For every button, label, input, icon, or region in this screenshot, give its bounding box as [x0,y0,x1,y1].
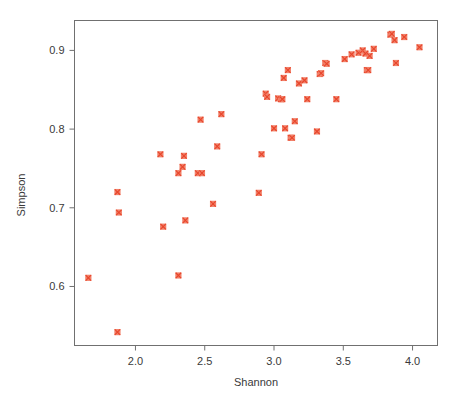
x-tick-label: 2.5 [197,355,212,367]
scatter-point [114,329,120,335]
x-axis-ticks: 2.02.53.03.54.0 [128,346,420,367]
scatter-point [175,272,181,278]
y-axis-label: Simpson [15,174,27,217]
x-axis-label: Shannon [234,376,278,388]
scatter-point [175,170,181,176]
scatter-point [256,190,262,196]
scatter-point [271,125,277,131]
scatter-point [301,77,307,83]
scatter-point [179,164,185,170]
y-tick-label: 0.9 [49,44,64,56]
data-points [85,31,422,335]
scatter-point [85,275,91,281]
scatter-point [160,224,166,230]
scatter-point [296,80,302,86]
scatter-point [389,31,395,37]
scatter-point [416,44,422,50]
scatter-point [367,53,373,59]
scatter-point [182,217,188,223]
scatter-point [214,143,220,149]
scatter-point [292,118,298,124]
scatter-point [181,153,187,159]
scatter-plot-figure: 2.02.53.03.54.0 0.60.70.80.9 Shannon Sim… [0,0,464,409]
scatter-point [365,67,371,73]
scatter-point [318,70,324,76]
scatter-point [371,46,377,52]
scatter-point [258,151,264,157]
scatter-point [199,170,205,176]
scatter-point [281,75,287,81]
x-tick-label: 3.0 [266,355,281,367]
scatter-point [342,56,348,62]
y-tick-label: 0.8 [49,123,64,135]
y-tick-label: 0.6 [49,280,64,292]
plot-canvas: 2.02.53.03.54.0 0.60.70.80.9 Shannon Sim… [0,0,464,409]
scatter-point [348,51,354,57]
scatter-point [393,60,399,66]
scatter-point [114,189,120,195]
x-tick-label: 4.0 [405,355,420,367]
scatter-point [333,96,339,102]
scatter-point [157,151,163,157]
y-axis-ticks: 0.60.70.80.9 [49,44,74,292]
scatter-point [391,37,397,43]
scatter-point [218,111,224,117]
scatter-point [210,201,216,207]
x-tick-label: 3.5 [336,355,351,367]
scatter-point [285,67,291,73]
y-tick-label: 0.7 [49,202,64,214]
scatter-point [264,94,270,100]
scatter-point [401,34,407,40]
scatter-point [314,128,320,134]
scatter-point [289,135,295,141]
scatter-point [282,125,288,131]
scatter-point [279,96,285,102]
plot-frame [75,21,438,346]
scatter-point [324,61,330,67]
scatter-point [197,117,203,123]
x-tick-label: 2.0 [128,355,143,367]
scatter-point [304,96,310,102]
scatter-point [116,209,122,215]
